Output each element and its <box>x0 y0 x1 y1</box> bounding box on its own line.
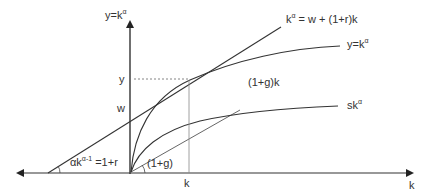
y-value-label: y <box>119 74 125 85</box>
savings-curve-label: skα <box>347 100 362 111</box>
y-axis-label-text: y=k <box>105 9 122 21</box>
tangent-label-k: k <box>286 13 292 25</box>
production-label-text: y=k <box>347 38 364 50</box>
x-axis-label: k <box>409 180 415 191</box>
tangent-label-rest: = w + (1+r)k <box>296 13 358 25</box>
savings-label-text: sk <box>347 99 358 111</box>
savings-label-sup: α <box>358 98 362 105</box>
y-axis-label-sup: α <box>122 8 126 15</box>
tangent-line <box>48 27 281 173</box>
production-curve-label: y=kα <box>347 39 368 50</box>
growth-line-label: (1+g)k <box>248 77 280 88</box>
growth-slope-label: (1+g) <box>147 158 173 169</box>
production-label-sup: α <box>364 37 368 44</box>
w-value-label: w <box>117 103 125 114</box>
production-curve <box>131 46 340 172</box>
y-axis-label: y=kα <box>105 10 126 21</box>
tangent-slope-sup: α-1 <box>82 155 92 162</box>
tangent-line-label: kα = w + (1+r)k <box>286 14 358 25</box>
tangent-label-sup: α <box>292 12 296 19</box>
growth-angle-arc <box>142 165 145 173</box>
tangent-slope-label: αkα-1 =1+r <box>70 157 118 168</box>
k-value-label: k <box>184 178 190 189</box>
tangent-slope-prefix: αk <box>70 156 82 168</box>
growth-diagram <box>0 0 427 194</box>
tangent-slope-rest: =1+r <box>92 156 118 168</box>
tangent-angle-arc <box>58 166 60 173</box>
